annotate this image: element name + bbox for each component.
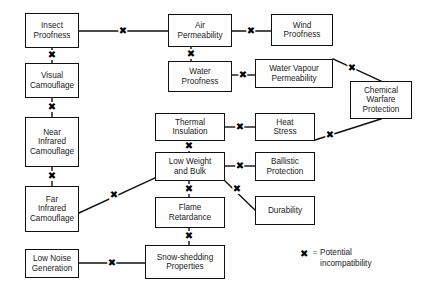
incompatibility-x-icon-e16: ✖ xyxy=(184,231,193,241)
node-durability[interactable]: Durability xyxy=(255,196,315,225)
incompatibility-x-icon-e6: ✖ xyxy=(246,26,255,36)
node-label-near_infrared: Near Infrared Camouflage xyxy=(30,128,74,156)
node-label-wind_proofness: Wind Proofness xyxy=(284,21,321,39)
incompatibility-x-icon-e5: ✖ xyxy=(109,190,118,200)
node-label-ballistic_protection: Ballistic Protection xyxy=(267,157,304,175)
node-near_infrared[interactable]: Near Infrared Camouflage xyxy=(25,117,79,167)
node-label-flame_retardance: Flame Retardance xyxy=(169,203,211,221)
node-insect_proofness[interactable]: Insect Proofness xyxy=(25,13,79,48)
incompatibility-x-icon-e9: ✖ xyxy=(347,63,356,73)
node-label-low_weight_and_bulk: Low Weight and Bulk xyxy=(169,157,212,175)
node-ballistic_protection[interactable]: Ballistic Protection xyxy=(255,152,315,181)
node-chemical_warfare[interactable]: Chemical Warfare Protection xyxy=(350,81,412,119)
legend: ✖ = Potential incompatibility xyxy=(300,248,371,269)
node-low_noise[interactable]: Low Noise Generation xyxy=(25,249,79,278)
incompatibility-x-icon-e8: ✖ xyxy=(238,70,247,80)
node-snow_shedding[interactable]: Snow-shedding Properties xyxy=(145,245,225,279)
node-visual_camouflage[interactable]: Visual Camouflage xyxy=(25,63,79,98)
node-label-air_permeability: Air Permeability xyxy=(177,21,222,39)
node-label-low_noise: Low Noise Generation xyxy=(32,254,73,272)
node-wind_proofness[interactable]: Wind Proofness xyxy=(271,14,333,46)
node-water_proofness[interactable]: Water Proofness xyxy=(168,61,232,92)
node-water_vapour[interactable]: Water Vapour Permeability xyxy=(255,59,333,88)
node-label-water_vapour: Water Vapour Permeability xyxy=(269,64,319,82)
incompatibility-x-icon-e14: ✖ xyxy=(232,184,241,194)
incompatibility-x-icon-e2: ✖ xyxy=(47,50,56,60)
node-label-snow_shedding: Snow-shedding Properties xyxy=(157,253,213,271)
incompatibility-x-icon-e17: ✖ xyxy=(107,258,116,268)
node-far_infrared[interactable]: Far Infrared Camouflage xyxy=(25,186,79,232)
legend-equals-sign: = xyxy=(312,248,317,258)
edge-water_vapour-to-chemical_warfare xyxy=(333,59,381,81)
node-flame_retardance[interactable]: Flame Retardance xyxy=(155,197,225,228)
node-label-durability: Durability xyxy=(268,206,302,215)
node-air_permeability[interactable]: Air Permeability xyxy=(168,14,232,47)
legend-x-icon: ✖ xyxy=(300,248,308,261)
incompatibility-diagram: Insect ProofnessVisual CamouflageNear In… xyxy=(0,0,423,294)
node-label-chemical_warfare: Chemical Warfare Protection xyxy=(363,86,400,114)
node-thermal_insulation[interactable]: Thermal Insulation xyxy=(155,113,225,141)
incompatibility-x-icon-e11: ✖ xyxy=(235,122,244,132)
node-label-visual_camouflage: Visual Camouflage xyxy=(30,71,74,89)
incompatibility-x-icon-e7: ✖ xyxy=(186,49,195,59)
incompatibility-x-icon-e4: ✖ xyxy=(47,171,56,181)
incompatibility-x-icon-e13: ✖ xyxy=(235,161,244,171)
node-label-water_proofness: Water Proofness xyxy=(182,67,219,85)
node-label-heat_stress: Heat Stress xyxy=(273,118,296,136)
legend-label: Potential incompatibility xyxy=(320,248,371,269)
incompatibility-x-icon-e15: ✖ xyxy=(184,184,193,194)
node-low_weight_and_bulk[interactable]: Low Weight and Bulk xyxy=(155,152,225,181)
node-label-thermal_insulation: Thermal Insulation xyxy=(172,118,207,136)
incompatibility-x-icon-e3: ✖ xyxy=(47,102,56,112)
incompatibility-x-icon-e12: ✖ xyxy=(184,141,193,151)
incompatibility-x-icon-e1: ✖ xyxy=(118,26,127,36)
node-heat_stress[interactable]: Heat Stress xyxy=(255,113,315,141)
node-label-insect_proofness: Insect Proofness xyxy=(34,21,71,39)
incompatibility-x-icon-e10: ✖ xyxy=(325,130,334,140)
node-label-far_infrared: Far Infrared Camouflage xyxy=(30,195,74,223)
